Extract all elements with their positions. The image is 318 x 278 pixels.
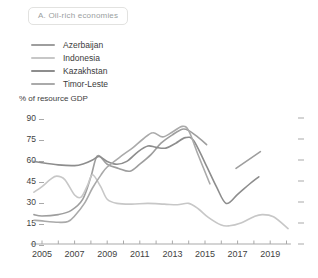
svg-text:0: 0 [31, 239, 36, 249]
svg-text:2019: 2019 [260, 249, 280, 259]
svg-text:2009: 2009 [97, 249, 117, 259]
svg-text:2013: 2013 [162, 249, 182, 259]
series-line-kazakhstan [34, 137, 259, 203]
svg-text:2007: 2007 [65, 249, 85, 259]
chart-panel: A. Oil-rich economies Azerbaijan Indones… [0, 0, 318, 278]
svg-text:30: 30 [27, 197, 37, 207]
svg-text:2005: 2005 [32, 249, 52, 259]
series-line-azerbaijan [34, 129, 207, 216]
svg-text:60: 60 [27, 155, 37, 165]
svg-text:2011: 2011 [130, 249, 149, 259]
svg-text:75: 75 [27, 134, 37, 144]
line-chart-plot: 2005200720092011201320152017201990756045… [0, 0, 318, 278]
series-line-azerbaijan [236, 152, 260, 169]
svg-text:2017: 2017 [228, 249, 248, 259]
svg-text:45: 45 [27, 176, 37, 186]
svg-text:2015: 2015 [195, 249, 215, 259]
svg-text:90: 90 [27, 113, 37, 123]
series-line-timor-leste [34, 126, 210, 222]
